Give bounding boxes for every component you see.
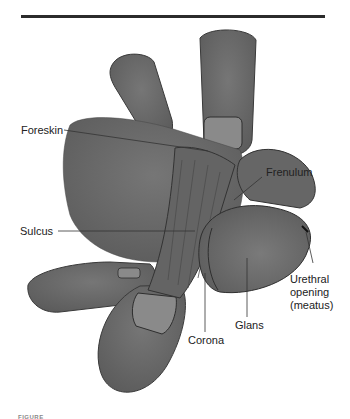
fingernail-lower-left — [118, 268, 140, 278]
label-sulcus: Sulcus — [20, 225, 53, 238]
label-urethral-line2: opening — [290, 286, 333, 299]
label-corona: Corona — [188, 334, 224, 347]
label-urethral-line3: (meatus) — [290, 299, 333, 312]
figure-caption-partial: FIGURE — [18, 414, 44, 419]
label-glans: Glans — [235, 319, 264, 332]
label-frenulum: Frenulum — [266, 166, 312, 179]
label-urethral-opening: Urethral opening (meatus) — [290, 273, 333, 312]
label-urethral-line1: Urethral — [290, 273, 333, 286]
label-foreskin: Foreskin — [21, 124, 63, 137]
anatomy-illustration — [0, 0, 350, 419]
